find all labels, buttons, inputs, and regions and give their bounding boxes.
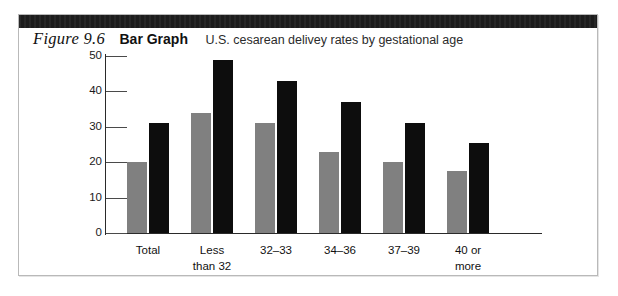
x-axis-label: 37–39 (372, 242, 436, 258)
figure-panel: Figure 9.6 Bar Graph U.S. cesarean deliv… (18, 14, 598, 276)
bar-pair (372, 56, 436, 233)
bar-pair (116, 56, 180, 233)
bar-pair (308, 56, 372, 233)
bar-gray (447, 171, 467, 233)
bar-gray (255, 123, 275, 233)
y-axis-line (105, 54, 106, 235)
y-tick-label: 10 (89, 191, 102, 203)
bar-black (341, 102, 361, 233)
y-tick-label: 30 (89, 120, 102, 132)
bar-gray (383, 162, 403, 233)
bar-group: Total (116, 56, 180, 233)
bar-black (213, 60, 233, 233)
x-axis-label: 32–33 (244, 242, 308, 258)
x-axis-label: Total (116, 242, 180, 258)
x-axis-label: 40 ormore (436, 242, 500, 274)
bar-group: 32–33 (244, 56, 308, 233)
bar-group: 34–36 (308, 56, 372, 233)
x-axis-label-line2: more (436, 258, 500, 274)
bar-black (405, 123, 425, 233)
bar-group: 40 ormore (436, 56, 500, 233)
bar-pair (244, 56, 308, 233)
x-axis-label-line2: than 32 (180, 258, 244, 274)
bar-gray (319, 152, 339, 233)
bar-gray (191, 113, 211, 233)
bar-black (277, 81, 297, 233)
bar-chart: 01020304050 TotalLessthan 3232–3334–3637… (19, 15, 599, 277)
y-tick-label: 50 (89, 49, 102, 61)
y-tick-label: 40 (89, 84, 102, 96)
bar-gray (127, 162, 147, 233)
bar-pair (436, 56, 500, 233)
bar-group: 37–39 (372, 56, 436, 233)
bar-black (149, 123, 169, 233)
bar-black (469, 143, 489, 233)
x-axis-label: 34–36 (308, 242, 372, 258)
y-tick-label: 0 (96, 226, 102, 238)
bar-pair (180, 56, 244, 233)
y-tick-label: 20 (89, 155, 102, 167)
x-axis-line (105, 233, 542, 234)
x-axis-label: Lessthan 32 (180, 242, 244, 274)
bar-group: Lessthan 32 (180, 56, 244, 233)
y-tick: 0 (106, 233, 127, 234)
